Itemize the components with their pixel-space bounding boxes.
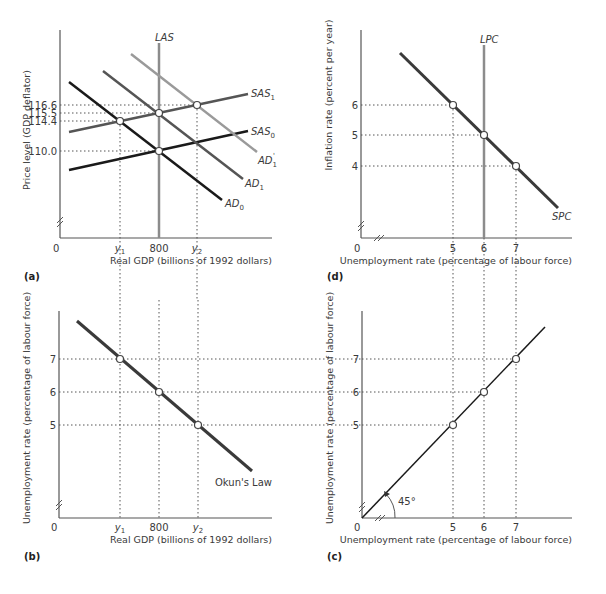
- point-y1-7: [117, 356, 124, 363]
- panel-b-ytick: 5: [50, 420, 56, 431]
- okun-curve: [77, 321, 252, 471]
- panel-b: Okun's Law 7 6 5 0 y1 800 y2 Real GDP (b…: [21, 292, 362, 562]
- panel-c-origin: 0: [354, 522, 360, 533]
- panel-b-label: (b): [24, 551, 40, 562]
- panel-b-origin: 0: [51, 522, 57, 533]
- panel-b-ylabel: Unemployment rate (percentage of labour …: [21, 292, 32, 524]
- point-y2-116-6: [194, 102, 201, 109]
- panel-a-ylabel: Price level (GDP deflator): [21, 70, 32, 190]
- point-800-6: [156, 389, 163, 396]
- spc-curve: [400, 53, 558, 208]
- point-800-110-0: [156, 148, 163, 155]
- angle-arc: [386, 494, 395, 518]
- panel-c-guides: [362, 300, 516, 518]
- panel-b-guides: [59, 300, 362, 518]
- panel-c-xtick: 5: [450, 522, 456, 533]
- panel-c-label: (c): [327, 551, 342, 562]
- panel-a-xlabel: Real GDP (billions of 1992 dollars): [110, 255, 272, 266]
- angle-45-label: 45°: [398, 496, 416, 507]
- spc-label: SPC: [552, 211, 571, 222]
- panel-c-xtick: 6: [481, 522, 487, 533]
- sas1-label: SAS1: [251, 88, 275, 102]
- panel-d-xtick: 7: [513, 243, 519, 254]
- panel-d-xtick: 5: [450, 243, 456, 254]
- panel-d-origin: 0: [354, 243, 360, 254]
- panel-a-xtick-800: 800: [149, 243, 168, 254]
- panel-d-ytick: 6: [352, 100, 358, 111]
- point-y2-5: [195, 422, 202, 429]
- panel-c-xlabel: Unemployment rate (percentage of labour …: [340, 534, 572, 545]
- point-y1-114-4: [117, 118, 124, 125]
- panel-c-ylabel: Unemployment rate (percentage of labour …: [324, 292, 335, 524]
- point-7-4: [513, 163, 520, 170]
- panel-d-ytick: 4: [352, 161, 358, 172]
- panel-d-guides: [361, 105, 516, 300]
- panel-c-ytick: 7: [353, 354, 359, 365]
- okun-label: Okun's Law: [215, 477, 272, 488]
- panel-d-xtick: 6: [481, 243, 487, 254]
- las-label: LAS: [155, 32, 174, 43]
- panel-c: 45° 7 6 5 0 5 6 7 Unemployment rate (per…: [324, 292, 572, 562]
- panel-a-origin: 0: [53, 243, 59, 254]
- point-6-5: [481, 132, 488, 139]
- panel-a-label: (a): [24, 271, 40, 282]
- panel-b-ytick: 6: [50, 387, 56, 398]
- panel-b-xlabel: Real GDP (billions of 1992 dollars): [110, 534, 272, 545]
- ad1-label: AD1: [244, 178, 264, 192]
- panel-c-ytick: 6: [353, 387, 359, 398]
- point-5-5: [450, 422, 457, 429]
- sas0-label: SAS0: [251, 126, 275, 140]
- point-800-115-5: [156, 110, 163, 117]
- four-panel-figure: LAS SAS1 SAS0 AD1' AD1 AD0 116.6 115.5 1…: [0, 0, 606, 594]
- panel-c-ytick: 5: [353, 420, 359, 431]
- panel-a-ytick: 114.4: [28, 116, 57, 127]
- lpc-label: LPC: [480, 34, 499, 45]
- panel-b-xtick-800: 800: [149, 522, 168, 533]
- ad1-prime-label: AD1': [257, 152, 277, 169]
- panel-b-ytick: 7: [50, 354, 56, 365]
- point-5-6: [450, 102, 457, 109]
- panel-a-guides: [60, 105, 197, 300]
- ad0-label: AD0: [224, 198, 244, 212]
- panel-d-xlabel: Unemployment rate (percentage of labour …: [340, 255, 572, 266]
- panel-a: LAS SAS1 SAS0 AD1' AD1 AD0 116.6 115.5 1…: [21, 30, 277, 300]
- point-6-6: [481, 389, 488, 396]
- panel-d: LPC SPC 6 5 4 0 5 6 7 Unemployment rate …: [323, 20, 572, 300]
- panel-d-ytick: 5: [352, 130, 358, 141]
- point-7-7: [513, 356, 520, 363]
- panel-a-ytick: 110.0: [28, 146, 57, 157]
- panel-c-xtick: 7: [513, 522, 519, 533]
- panel-d-label: (d): [327, 271, 343, 282]
- panel-d-ylabel: Inflation rate (percent per year): [323, 20, 334, 171]
